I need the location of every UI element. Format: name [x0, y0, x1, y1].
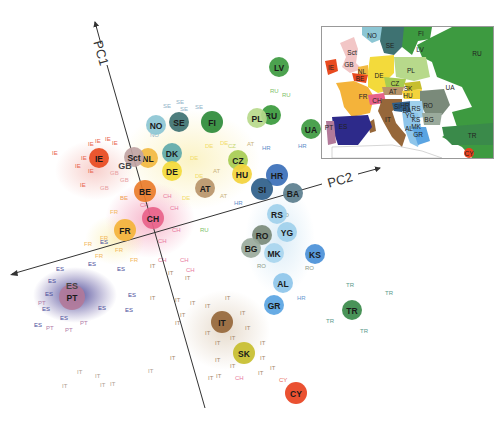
map-label-sk: SK	[404, 85, 413, 92]
svg-text:NL: NL	[142, 154, 153, 164]
sample-label: PT	[38, 300, 46, 306]
svg-text:RS: RS	[271, 210, 283, 220]
map-label-bg: BG	[424, 116, 433, 123]
centroid-bg: BG	[241, 238, 261, 258]
sample-label: FR	[95, 253, 104, 259]
svg-text:BA: BA	[287, 189, 299, 199]
sample-label: DE	[182, 195, 190, 201]
sample-label: IE	[52, 150, 58, 156]
pc1-label: PC1	[90, 39, 111, 67]
sample-label: SE	[195, 104, 203, 110]
centroid-si: SI	[251, 178, 273, 200]
sample-label: RU	[200, 227, 209, 233]
sample-label: GB	[120, 177, 129, 183]
map-label-be: BE	[356, 75, 365, 82]
svg-text:BE: BE	[139, 187, 151, 197]
centroid-it: IT	[211, 311, 233, 333]
svg-text:TR: TR	[346, 306, 357, 316]
svg-text:UA: UA	[305, 125, 317, 135]
svg-text:AT: AT	[200, 184, 212, 194]
svg-text:SE: SE	[173, 118, 185, 128]
centroid-gb: GB	[118, 161, 132, 171]
svg-text:CZ: CZ	[232, 156, 243, 166]
map-label-tr: TR	[468, 132, 477, 139]
svg-text:YG: YG	[281, 228, 294, 238]
map-label-nl: NL	[358, 68, 367, 75]
sample-label: IT	[258, 370, 264, 376]
sample-label: ES	[34, 322, 42, 328]
centroid-hu: HU	[232, 164, 252, 184]
sample-label: IE	[80, 182, 86, 188]
sample-label: AT	[247, 141, 255, 147]
map-label-ru: RU	[472, 50, 482, 57]
centroid-gr: GR	[264, 295, 284, 315]
sample-label: IE	[88, 141, 94, 147]
svg-text:PL: PL	[252, 114, 263, 124]
sample-label: HR	[234, 200, 243, 206]
svg-text:NO: NO	[150, 121, 163, 131]
map-label-es: ES	[339, 123, 348, 130]
map-label-ua: UA	[445, 84, 455, 91]
sample-label: ES	[125, 307, 133, 313]
sample-label: IT	[205, 303, 211, 309]
centroid-fi: FI	[201, 111, 223, 133]
centroid-es: ES	[66, 281, 78, 291]
map-label-lv: LV	[416, 46, 424, 53]
sample-label: CY	[279, 377, 287, 383]
sample-label: SE	[163, 103, 171, 109]
centroid-sk: SK	[233, 342, 255, 364]
sample-label: FR	[130, 257, 139, 263]
sample-label: ES	[98, 305, 106, 311]
sample-label: PT	[46, 325, 54, 331]
svg-text:FR: FR	[119, 226, 130, 236]
svg-text:CH: CH	[147, 214, 159, 224]
sample-label: IT	[215, 340, 221, 346]
sample-label: IT	[216, 373, 222, 379]
centroid-lv: LV	[269, 57, 289, 77]
svg-text:HU: HU	[236, 170, 248, 180]
svg-text:SK: SK	[238, 349, 251, 359]
map-label-ie: IE	[328, 64, 335, 71]
sample-label: ES	[60, 315, 68, 321]
svg-text:GB: GB	[118, 161, 132, 171]
sample-label: ES	[100, 239, 108, 245]
sample-label: CH	[158, 238, 167, 244]
svg-text:FI: FI	[208, 118, 216, 128]
map-label-hu: HU	[403, 92, 413, 99]
centroid-ch: CH	[142, 207, 164, 229]
sample-label: FR	[115, 247, 124, 253]
sample-label: IT	[110, 381, 116, 387]
sample-label: SE	[176, 99, 184, 105]
sample-label: HR	[297, 295, 306, 301]
sample-label: IT	[168, 270, 174, 276]
centroid-fr: FR	[114, 219, 136, 241]
sample-label: CH	[186, 267, 195, 273]
sample-label: PT	[65, 327, 73, 333]
map-label-se: SE	[386, 42, 395, 49]
sample-label: HR	[298, 143, 307, 149]
sample-label: AT	[213, 168, 221, 174]
svg-text:IE: IE	[95, 154, 103, 164]
sample-label: IE	[95, 138, 101, 144]
centroid-no: NO	[146, 115, 166, 135]
sample-label: IT	[230, 363, 236, 369]
map-label-de: DE	[374, 72, 384, 79]
svg-text:PT: PT	[67, 293, 79, 303]
sample-label: FR	[84, 241, 93, 247]
centroid-rs: RS	[267, 204, 287, 224]
sample-label: SE	[180, 106, 188, 112]
sample-label: IT	[175, 297, 181, 303]
centroid-cy: CY	[285, 382, 307, 404]
map-label-fr: FR	[359, 93, 368, 100]
sample-label: IT	[240, 310, 246, 316]
map-label-ch: CH	[372, 97, 382, 104]
svg-text:HR: HR	[271, 171, 283, 181]
sample-label: IT	[208, 375, 214, 381]
sample-label: GB	[100, 185, 109, 191]
sample-label: RU	[270, 88, 279, 94]
sample-label: TR	[346, 282, 355, 288]
centroid-al: AL	[273, 273, 293, 293]
map-label-it: IT	[385, 116, 391, 123]
centroid-tr: TR	[342, 300, 362, 320]
centroid-ua: UA	[301, 119, 321, 139]
